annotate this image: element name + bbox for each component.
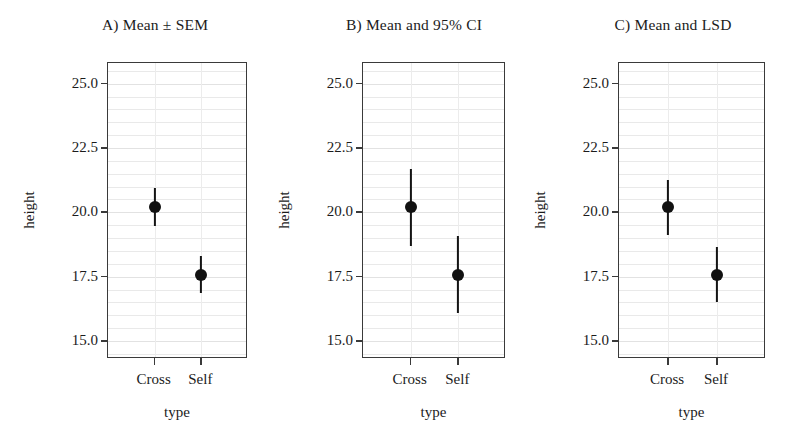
panel-c-plot-frame [618,62,765,358]
y-axis-tick [101,83,107,85]
y-axis-tick-label: 20.0 [566,203,609,220]
panel-c: C) Mean and LSD 25.022.520.017.515.0heig… [528,0,792,446]
y-axis-tick [101,147,107,149]
panel-b: B) Mean and 95% CI 25.022.520.017.515.0h… [266,0,532,446]
y-axis-tick-label: 25.0 [310,74,353,91]
x-axis-tick-label: Cross [137,371,171,388]
y-axis-tick-label: 15.0 [310,331,353,348]
y-axis-tick [356,147,362,149]
y-axis-tick [612,340,618,342]
y-axis-title: height [276,191,293,229]
y-axis-tick [101,340,107,342]
y-axis-tick-label: 25.0 [55,74,98,91]
y-axis-tick [101,211,107,213]
y-axis-tick [612,276,618,278]
y-axis-tick-label: 25.0 [566,74,609,91]
y-axis-tick [356,211,362,213]
x-axis-tick [200,358,202,365]
y-axis-tick-label: 20.0 [310,203,353,220]
y-axis-tick [356,83,362,85]
x-axis-tick [154,358,156,365]
panel-c-data [619,63,764,357]
y-axis-tick [612,83,618,85]
panel-b-data [363,63,504,357]
y-axis-tick-label: 17.5 [310,267,353,284]
y-axis-tick [612,147,618,149]
panel-b-plot-frame [362,62,505,358]
x-axis-tick-label: Self [188,371,212,388]
y-axis-title: height [532,191,549,229]
x-axis-tick-label: Self [445,371,469,388]
panel-a-data [108,63,246,357]
x-axis-title: type [421,404,447,421]
data-point-marker [711,269,723,281]
panel-b-title: B) Mean and 95% CI [266,16,532,34]
data-point-marker [452,269,464,281]
x-axis-tick-label: Self [704,371,728,388]
panel-c-title: C) Mean and LSD [528,16,792,34]
figure-panel-group: A) Mean ± SEM 25.022.520.017.515.0height… [0,0,792,446]
x-axis-title: type [164,404,190,421]
x-axis-tick-label: Cross [393,371,427,388]
y-axis-title: height [21,191,38,229]
panel-a-plot-frame [107,62,247,358]
x-axis-tick-label: Cross [650,371,684,388]
y-axis-tick-label: 22.5 [310,138,353,155]
data-point-marker [195,269,207,281]
x-axis-tick [410,358,412,365]
data-point-marker [149,201,161,213]
y-axis-tick [356,340,362,342]
y-axis-tick [612,211,618,213]
x-axis-tick [667,358,669,365]
panel-a: A) Mean ± SEM 25.022.520.017.515.0height… [0,0,270,446]
y-axis-tick-label: 20.0 [55,203,98,220]
x-axis-title: type [679,404,705,421]
y-axis-tick-label: 17.5 [566,267,609,284]
y-axis-tick-label: 17.5 [55,267,98,284]
x-axis-tick [457,358,459,365]
y-axis-tick [101,276,107,278]
data-point-marker [662,201,674,213]
x-axis-tick [716,358,718,365]
y-axis-tick [356,276,362,278]
y-axis-tick-label: 22.5 [566,138,609,155]
data-point-marker [405,201,417,213]
y-axis-tick-label: 15.0 [55,331,98,348]
y-axis-tick-label: 15.0 [566,331,609,348]
panel-a-title: A) Mean ± SEM [0,16,270,34]
y-axis-tick-label: 22.5 [55,138,98,155]
